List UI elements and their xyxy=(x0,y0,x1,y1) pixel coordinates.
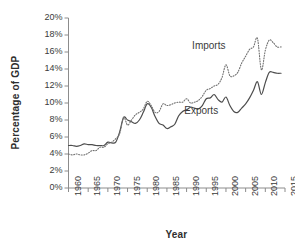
y-tick-label: 4% xyxy=(29,148,63,158)
x-tick-label: 2015 xyxy=(289,176,295,196)
chart-container: Percentage of GDP Year 0%2%4%6%8%10%12%1… xyxy=(0,0,295,249)
y-tick-label: 0% xyxy=(29,182,63,192)
y-tick-label: 12% xyxy=(29,80,63,90)
chart-series xyxy=(69,38,282,155)
y-tick-label: 20% xyxy=(29,12,63,22)
y-tick-label: 16% xyxy=(29,46,63,56)
x-axis-title: Year xyxy=(68,229,285,240)
x-tick-label: 2000 xyxy=(230,176,240,196)
series-line-exports xyxy=(69,72,282,147)
x-tick-label: 2005 xyxy=(250,176,260,196)
x-tick-label: 1990 xyxy=(191,176,201,196)
y-axis-title: Percentage of GDP xyxy=(10,43,21,163)
x-tick-label: 1960 xyxy=(73,176,83,196)
y-tick-label: 10% xyxy=(29,97,63,107)
y-tick-label: 8% xyxy=(29,114,63,124)
y-tick-label: 6% xyxy=(29,131,63,141)
series-label-imports: Imports xyxy=(192,40,225,51)
x-tick-label: 1965 xyxy=(92,176,102,196)
y-tick-label: 14% xyxy=(29,63,63,73)
chart-axes xyxy=(65,18,286,192)
x-tick-label: 1980 xyxy=(151,176,161,196)
series-line-imports xyxy=(69,38,282,155)
x-tick-label: 1975 xyxy=(132,176,142,196)
y-tick-label: 2% xyxy=(29,165,63,175)
x-tick-label: 1985 xyxy=(171,176,181,196)
x-tick-label: 1995 xyxy=(210,176,220,196)
x-tick-label: 1970 xyxy=(112,176,122,196)
x-tick-label: 2010 xyxy=(269,176,279,196)
series-label-exports: Exports xyxy=(184,105,218,116)
y-tick-label: 18% xyxy=(29,29,63,39)
